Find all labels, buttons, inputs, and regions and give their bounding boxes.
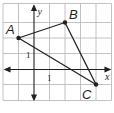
y-axis <box>32 6 36 101</box>
point-b <box>63 20 67 24</box>
point-c <box>94 82 98 86</box>
x-axis-label: x <box>104 71 110 82</box>
x-axis-left-arrow-icon <box>5 67 10 71</box>
x-tick-label-1: 1 <box>47 73 52 83</box>
segment-ab <box>19 23 66 39</box>
point-a <box>16 36 20 40</box>
y-tick-label-1: 1 <box>26 50 31 60</box>
point-c-label: C <box>82 87 92 102</box>
y-axis-down-arrow-icon <box>32 95 36 100</box>
x-axis <box>5 67 110 71</box>
point-b-label: B <box>69 7 78 22</box>
y-axis-label: y <box>37 6 43 17</box>
coordinate-plane: A B C y x 1 1 <box>0 0 114 113</box>
y-axis-up-arrow-icon <box>32 6 36 11</box>
point-a-label: A <box>5 22 15 37</box>
